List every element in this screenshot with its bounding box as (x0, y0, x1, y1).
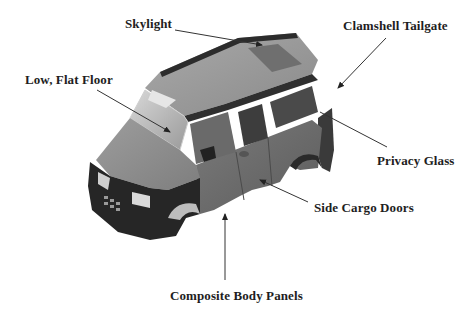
clamshell-tailgate-leader (338, 38, 386, 88)
side-cargo-doors-leader (260, 180, 308, 202)
low-flat-floor-label: Low, Flat Floor (25, 72, 113, 88)
composite-body-panels-label: Composite Body Panels (170, 288, 303, 304)
clamshell-tailgate-label: Clamshell Tailgate (343, 18, 448, 34)
privacy-glass-label: Privacy Glass (377, 153, 455, 169)
car-body (88, 33, 334, 240)
side-cargo-doors-label: Side Cargo Doors (314, 200, 414, 216)
skylight-label: Skylight (125, 16, 172, 32)
